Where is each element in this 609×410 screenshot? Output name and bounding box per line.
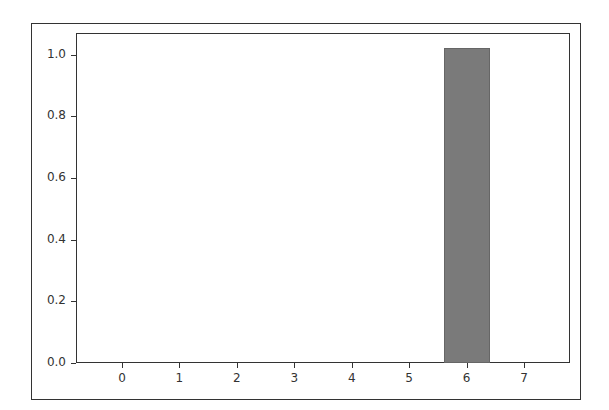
x-tick-label: 3 [284, 371, 304, 385]
y-tick-label: 0.6 [36, 170, 66, 184]
x-tick [409, 363, 410, 368]
x-tick-label: 0 [112, 371, 132, 385]
x-tick-label: 5 [399, 371, 419, 385]
y-tick [71, 55, 76, 56]
x-tick [179, 363, 180, 368]
x-tick [467, 363, 468, 368]
x-tick [524, 363, 525, 368]
y-tick-label: 0.8 [36, 108, 66, 122]
plot-area [76, 33, 570, 363]
y-tick [71, 301, 76, 302]
y-tick [71, 178, 76, 179]
y-tick-label: 1.0 [36, 47, 66, 61]
y-tick-label: 0.0 [36, 355, 66, 369]
bar-6 [444, 48, 490, 363]
y-tick-label: 0.4 [36, 232, 66, 246]
y-tick [71, 363, 76, 364]
x-tick [352, 363, 353, 368]
x-tick [237, 363, 238, 368]
x-tick-label: 6 [457, 371, 477, 385]
x-tick-label: 2 [227, 371, 247, 385]
x-tick [122, 363, 123, 368]
y-tick [71, 116, 76, 117]
x-tick [294, 363, 295, 368]
y-tick [71, 240, 76, 241]
x-tick-label: 7 [514, 371, 534, 385]
x-tick-label: 1 [169, 371, 189, 385]
x-tick-label: 4 [342, 371, 362, 385]
y-tick-label: 0.2 [36, 293, 66, 307]
